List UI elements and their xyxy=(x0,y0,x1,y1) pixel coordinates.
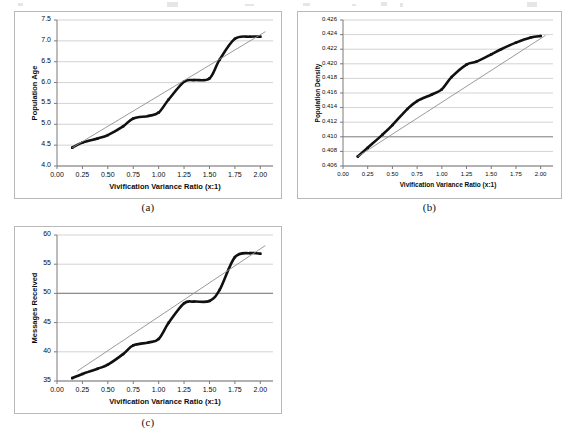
x-axis-title: Vivification Variance Ratio (x:1) xyxy=(57,397,273,406)
data-point-marker xyxy=(122,353,124,355)
y-axis-title: Population Age xyxy=(30,20,39,166)
data-point-marker xyxy=(234,38,236,40)
trendline xyxy=(72,32,265,148)
data-point-marker xyxy=(234,256,236,258)
data-point-marker xyxy=(259,252,261,254)
data-series-line xyxy=(72,253,260,378)
data-point-marker xyxy=(193,79,195,81)
data-point-marker xyxy=(515,41,517,43)
data-point-marker xyxy=(416,100,418,102)
data-point-marker xyxy=(218,289,220,291)
data-point-marker xyxy=(122,125,124,127)
data-point-marker xyxy=(157,111,159,113)
data-point-marker xyxy=(168,321,170,323)
figure-panel-c: (c) 3540455055600.000.250.500.751.001.25… xyxy=(14,226,282,431)
y-axis-title: Population Density xyxy=(314,20,321,166)
data-point-marker xyxy=(500,48,502,50)
panel-caption-a: (a) xyxy=(14,201,282,213)
data-point-marker xyxy=(183,302,185,304)
data-point-marker xyxy=(441,88,443,90)
data-point-marker xyxy=(367,147,369,149)
x-axis-title: Vivification Variance Ratio (x:1) xyxy=(343,181,553,188)
data-point-marker xyxy=(406,108,408,110)
data-point-marker xyxy=(259,35,261,37)
data-point-marker xyxy=(107,363,109,365)
data-point-marker xyxy=(193,300,195,302)
panel-caption-b: (b) xyxy=(297,201,562,213)
figure-panel-b: (b) 0.4060.4080.4100.4120.4140.4160.4180… xyxy=(297,11,562,216)
x-tick-label: 2.00 xyxy=(243,171,277,178)
trendline xyxy=(358,35,546,156)
y-axis-title: Messages Received xyxy=(30,235,39,381)
data-point-marker xyxy=(530,36,532,38)
data-point-marker xyxy=(96,137,98,139)
x-tick-label: 2.00 xyxy=(243,386,277,393)
data-point-marker xyxy=(431,93,433,95)
x-tick-label: 2.00 xyxy=(524,171,558,177)
data-point-marker xyxy=(157,338,159,340)
data-point-marker xyxy=(96,368,98,370)
x-axis-title: Vivification Variance Ratio (x:1) xyxy=(57,182,273,191)
data-point-marker xyxy=(132,344,134,346)
data-point-marker xyxy=(249,35,251,37)
data-point-marker xyxy=(539,35,541,37)
data-point-marker xyxy=(451,76,453,78)
panel-caption-c: (c) xyxy=(14,416,282,428)
data-point-marker xyxy=(249,252,251,254)
data-point-marker xyxy=(208,300,210,302)
figure-panel-a: (a) 4.04.55.05.56.06.57.07.50.000.250.50… xyxy=(14,11,282,216)
data-point-marker xyxy=(391,124,393,126)
data-point-marker xyxy=(132,117,134,119)
data-point-marker xyxy=(147,115,149,117)
data-point-marker xyxy=(490,53,492,55)
data-point-marker xyxy=(168,98,170,100)
data-point-marker xyxy=(475,60,477,62)
data-point-marker xyxy=(147,341,149,343)
data-point-marker xyxy=(381,133,383,135)
data-point-marker xyxy=(71,377,73,379)
data-point-marker xyxy=(208,77,210,79)
data-point-marker xyxy=(107,134,109,136)
data-point-marker xyxy=(81,373,83,375)
data-point-marker xyxy=(465,63,467,65)
